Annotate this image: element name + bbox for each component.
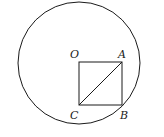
diagonal-ac [79,62,122,105]
label-o: O [70,48,79,61]
label-a: A [117,48,126,61]
label-c: C [70,109,79,122]
geometry-diagram: O A B C [0,0,164,137]
label-b: B [119,109,128,122]
